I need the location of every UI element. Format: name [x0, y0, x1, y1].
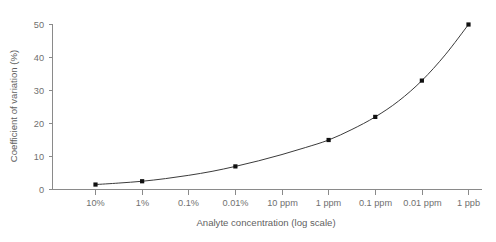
data-point-marker — [373, 115, 377, 119]
y-tick-label-20: 20 — [34, 119, 44, 129]
data-point-marker — [140, 179, 144, 183]
x-tick-label-8: 1 ppb — [457, 198, 480, 208]
y-axis-title: Coefficient of variation (%) — [8, 50, 19, 162]
chart-plot-area: 0 10 20 30 40 50 Coefficient of variatio… — [0, 0, 496, 242]
y-tick-label-50: 50 — [34, 20, 44, 30]
data-point-marker — [233, 164, 237, 168]
x-tick-label-5: 1 ppm — [316, 198, 342, 208]
data-series-markers — [93, 22, 470, 186]
data-point-marker — [327, 138, 331, 142]
x-tick-label-3: 0.01% — [222, 198, 248, 208]
data-point-marker — [466, 22, 470, 26]
x-tick-label-7: 0.01 ppm — [403, 198, 442, 208]
x-tick-label-1: 1% — [136, 198, 149, 208]
chart-container: 0 10 20 30 40 50 Coefficient of variatio… — [0, 0, 496, 242]
y-axis-tick-labels: 0 10 20 30 40 50 — [34, 20, 44, 195]
y-axis-ticks — [49, 25, 53, 190]
y-tick-label-40: 40 — [34, 53, 44, 63]
x-axis-title: Analyte concentration (log scale) — [196, 217, 335, 228]
x-tick-label-6: 0.1 ppm — [359, 198, 393, 208]
x-tick-label-2: 0.1% — [178, 198, 199, 208]
y-tick-label-10: 10 — [34, 152, 44, 162]
data-series-line — [96, 25, 469, 185]
x-tick-label-4: 10 ppm — [267, 198, 298, 208]
x-tick-label-0: 10% — [86, 198, 104, 208]
x-axis-tick-labels: 10% 1% 0.1% 0.01% 10 ppm 1 ppm 0.1 ppm 0… — [86, 198, 480, 208]
x-axis-ticks — [96, 190, 469, 195]
y-tick-label-0: 0 — [39, 185, 44, 195]
data-point-marker — [420, 79, 424, 83]
y-tick-label-30: 30 — [34, 86, 44, 96]
data-point-marker — [93, 182, 97, 186]
